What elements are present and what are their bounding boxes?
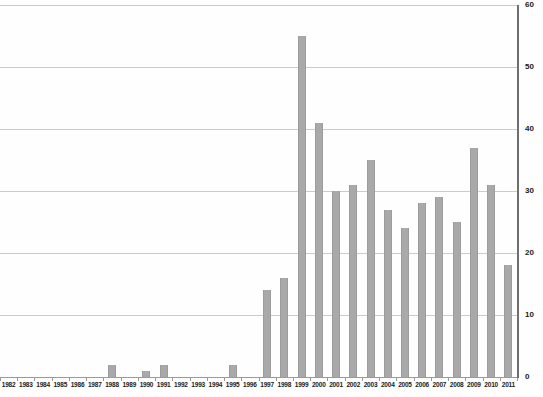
bar-2005 [401,228,409,377]
bar-2004 [384,210,392,377]
y-axis-label-10: 10 [525,310,534,319]
bar-2001 [332,191,340,377]
x-axis-label-1992: 1992 [172,381,189,388]
x-axis-label-1996: 1996 [241,381,258,388]
x-axis-label-1993: 1993 [190,381,207,388]
x-axis-label-1989: 1989 [121,381,138,388]
x-axis-label-2008: 2008 [448,381,465,388]
x-axis-label-1985: 1985 [52,381,69,388]
x-axis-label-2011: 2011 [500,381,517,388]
bar-chart-figure: 0102030405060198219831984198519861987198… [0,0,543,397]
x-axis-label-2001: 2001 [327,381,344,388]
bar-2011 [504,265,512,377]
bar-1988 [108,365,116,377]
x-axis-label-2002: 2002 [345,381,362,388]
bar-2003 [367,160,375,377]
x-axis-label-2003: 2003 [362,381,379,388]
bar-2006 [418,203,426,377]
bar-1998 [280,278,288,377]
y-axis-label-60: 60 [525,0,534,9]
x-axis-label-1999: 1999 [293,381,310,388]
bar-2009 [470,148,478,377]
x-axis-label-1997: 1997 [259,381,276,388]
plot-area: 0102030405060198219831984198519861987198… [0,0,543,397]
x-axis-label-1994: 1994 [207,381,224,388]
x-axis-label-1998: 1998 [276,381,293,388]
gridline [0,67,517,68]
x-axis-label-1983: 1983 [17,381,34,388]
y-axis-label-50: 50 [525,62,534,71]
bar-1995 [229,365,237,377]
bar-2008 [453,222,461,377]
x-axis-label-1987: 1987 [86,381,103,388]
bar-1999 [298,36,306,377]
x-axis-label-2005: 2005 [396,381,413,388]
y-axis-line [517,5,519,378]
y-axis-label-30: 30 [525,186,534,195]
x-axis-label-2006: 2006 [414,381,431,388]
gridline [0,5,517,6]
bar-1997 [263,290,271,377]
x-axis-label-1988: 1988 [103,381,120,388]
y-axis-label-20: 20 [525,248,534,257]
x-axis-label-1984: 1984 [34,381,51,388]
x-axis-label-1982: 1982 [0,381,17,388]
x-axis-label-1986: 1986 [69,381,86,388]
x-axis-label-1995: 1995 [224,381,241,388]
x-axis-label-1991: 1991 [155,381,172,388]
x-axis-label-2007: 2007 [431,381,448,388]
y-axis-label-0: 0 [525,372,529,381]
x-axis-label-2000: 2000 [310,381,327,388]
bar-2000 [315,123,323,377]
x-axis-label-2004: 2004 [379,381,396,388]
bar-2007 [435,197,443,377]
gridline [0,191,517,192]
bar-2002 [349,185,357,377]
bar-1991 [160,365,168,377]
x-axis-label-2010: 2010 [483,381,500,388]
x-axis-tick [517,378,518,381]
bar-2010 [487,185,495,377]
x-axis-label-1990: 1990 [138,381,155,388]
x-axis-label-2009: 2009 [465,381,482,388]
gridline [0,129,517,130]
y-axis-label-40: 40 [525,124,534,133]
